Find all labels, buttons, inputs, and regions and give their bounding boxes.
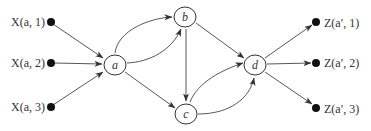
output-label-z2: Z(a′, 2) [324, 56, 359, 70]
output-dot-z1 [312, 18, 320, 26]
edge-a-c [125, 72, 175, 108]
edge-a-b-lower [127, 29, 181, 63]
edge-x1-a [53, 24, 103, 58]
edge-d-z2 [267, 63, 311, 64]
output-label-z3: Z(a′, 3) [324, 102, 359, 116]
edge-b-d [196, 23, 244, 58]
output-label-z1: Z(a′, 1) [324, 16, 359, 30]
node-d-label: d [252, 58, 259, 72]
input-dot-x3 [47, 103, 55, 111]
edge-x3-a [53, 72, 103, 105]
node-a: a [104, 55, 126, 75]
input-label-x3: X(a, 3) [11, 100, 45, 114]
node-d: d [244, 55, 266, 75]
node-b: b [174, 7, 196, 27]
input-dot-x2 [47, 59, 55, 67]
edge-d-z1 [265, 25, 312, 58]
node-a-label: a [112, 58, 118, 72]
edge-a-b-upper [115, 17, 172, 53]
node-c: c [175, 104, 197, 124]
edge-c-d-upper [190, 63, 243, 102]
output-dot-z3 [312, 104, 320, 112]
edge-d-z3 [265, 72, 312, 104]
node-c-label: c [183, 107, 189, 121]
graph-diagram: a b c d X(a, 1) X(a, 2) X(a, 3) Z(a′, 1)… [0, 0, 371, 131]
edge-x2-a [54, 63, 102, 64]
node-b-label: b [182, 10, 188, 24]
edge-c-d-lower [198, 78, 254, 114]
input-dot-x1 [47, 18, 55, 26]
input-label-x1: X(a, 1) [11, 15, 45, 29]
output-dot-z2 [312, 59, 320, 67]
input-label-x2: X(a, 2) [11, 56, 45, 70]
